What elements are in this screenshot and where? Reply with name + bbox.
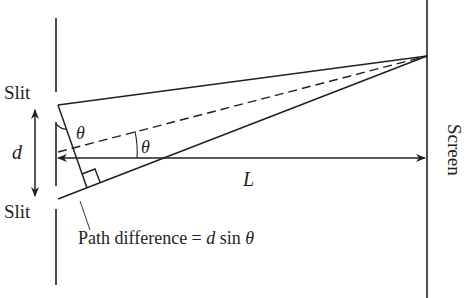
angle-label-slit: θ [76, 123, 85, 143]
slit-top-label: Slit [4, 82, 31, 103]
separation-label: d [12, 141, 23, 163]
path-difference-sin: sin [215, 228, 245, 248]
upper-ray [58, 56, 427, 105]
path-difference-leader [80, 201, 90, 230]
double-slit-diagram: Slit Slit d θ θ L Screen Path difference… [0, 0, 472, 298]
center-dashed-line [58, 56, 427, 152]
slit-bottom-label: Slit [4, 201, 31, 222]
screen-label: Screen [444, 124, 465, 176]
path-difference-label: Path difference = d sin θ [78, 228, 254, 248]
path-difference-text: Path difference = [78, 228, 206, 248]
distance-label: L [242, 168, 254, 190]
perpendicular-line [58, 105, 87, 188]
angle-label-center: θ [141, 137, 150, 157]
angle-arc-center [135, 131, 137, 158]
path-difference-theta: θ [245, 228, 254, 248]
